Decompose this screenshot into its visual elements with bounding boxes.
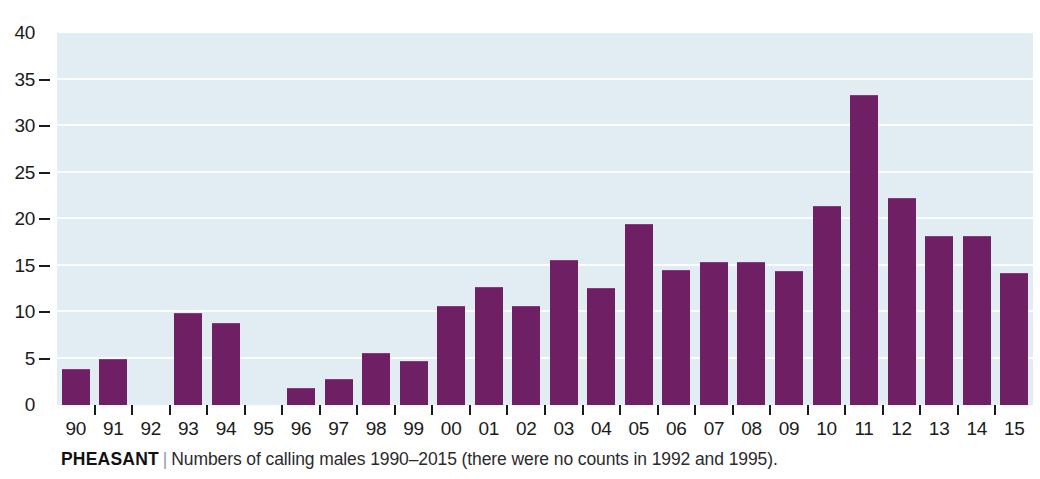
- caption-description: Numbers of calling males 1990–2015 (ther…: [171, 449, 777, 469]
- bar-10[interactable]: [813, 206, 841, 405]
- x-tick-mark-5: [244, 405, 246, 415]
- x-tick-mark-3: [169, 405, 171, 415]
- gridline-35: [57, 78, 1033, 80]
- x-tick-mark-20: [807, 405, 809, 415]
- bar-06[interactable]: [662, 270, 690, 405]
- bar-13[interactable]: [925, 236, 953, 405]
- y-tick-mark-5: [39, 358, 50, 360]
- x-tick-label-98: 98: [366, 418, 387, 440]
- y-tick-mark-25: [39, 172, 50, 174]
- plot-area: [57, 33, 1033, 405]
- gridline-5: [57, 357, 1033, 359]
- x-tick-label-09: 09: [779, 418, 800, 440]
- x-tick-label-06: 06: [666, 418, 687, 440]
- bar-09[interactable]: [775, 271, 803, 405]
- x-tick-label-12: 12: [891, 418, 912, 440]
- y-tick-label-15: 15: [14, 255, 35, 277]
- bar-03[interactable]: [550, 260, 578, 405]
- bar-91[interactable]: [99, 359, 127, 405]
- caption-species-name: PHEASANT: [61, 449, 159, 469]
- y-tick-label-5: 5: [25, 348, 35, 370]
- bar-96[interactable]: [287, 388, 315, 405]
- bar-97[interactable]: [325, 379, 353, 405]
- bar-11[interactable]: [850, 95, 878, 405]
- y-tick-label-0: 0: [25, 394, 35, 416]
- x-tick-mark-12: [506, 405, 508, 415]
- y-tick-label-40: 40: [14, 22, 35, 44]
- bar-90[interactable]: [62, 369, 90, 405]
- y-tick-label-25: 25: [14, 162, 35, 184]
- x-tick-mark-6: [281, 405, 283, 415]
- x-tick-mark-9: [394, 405, 396, 415]
- x-tick-label-04: 04: [591, 418, 612, 440]
- x-tick-mark-7: [319, 405, 321, 415]
- x-tick-label-13: 13: [929, 418, 950, 440]
- x-tick-label-05: 05: [629, 418, 650, 440]
- x-tick-label-11: 11: [855, 418, 874, 440]
- bar-01[interactable]: [475, 287, 503, 405]
- bar-15[interactable]: [1000, 273, 1028, 405]
- x-tick-mark-13: [544, 405, 546, 415]
- x-tick-label-15: 15: [1004, 418, 1025, 440]
- x-tick-mark-15: [619, 405, 621, 415]
- bar-94[interactable]: [212, 323, 240, 405]
- bar-99[interactable]: [400, 361, 428, 405]
- x-tick-mark-4: [206, 405, 208, 415]
- x-tick-mark-23: [919, 405, 921, 415]
- bar-05[interactable]: [625, 224, 653, 405]
- y-tick-mark-30: [39, 125, 50, 127]
- x-tick-mark-24: [957, 405, 959, 415]
- x-tick-mark-2: [131, 405, 133, 415]
- x-tick-label-08: 08: [741, 418, 762, 440]
- x-tick-label-00: 00: [441, 418, 462, 440]
- bar-93[interactable]: [174, 313, 202, 405]
- x-tick-label-02: 02: [516, 418, 537, 440]
- x-tick-mark-10: [431, 405, 433, 415]
- y-tick-label-10: 10: [14, 301, 35, 323]
- x-tick-mark-17: [694, 405, 696, 415]
- y-tick-mark-20: [39, 218, 50, 220]
- gridline-20: [57, 217, 1033, 219]
- gridline-10: [57, 310, 1033, 312]
- x-tick-label-94: 94: [216, 418, 237, 440]
- bar-14[interactable]: [963, 236, 991, 405]
- x-tick-mark-18: [732, 405, 734, 415]
- bar-07[interactable]: [700, 262, 728, 405]
- x-tick-mark-1: [94, 405, 96, 415]
- gridline-15: [57, 264, 1033, 266]
- x-tick-label-92: 92: [141, 418, 162, 440]
- x-tick-mark-11: [469, 405, 471, 415]
- x-tick-label-07: 07: [704, 418, 725, 440]
- x-tick-label-10: 10: [816, 418, 837, 440]
- bar-98[interactable]: [362, 353, 390, 405]
- gridline-30: [57, 124, 1033, 126]
- y-tick-label-30: 30: [14, 115, 35, 137]
- x-tick-label-01: 01: [478, 418, 499, 440]
- bar-02[interactable]: [512, 306, 540, 405]
- x-tick-mark-16: [657, 405, 659, 415]
- x-tick-label-93: 93: [178, 418, 199, 440]
- x-tick-label-96: 96: [291, 418, 312, 440]
- x-tick-mark-19: [769, 405, 771, 415]
- y-tick-mark-15: [39, 265, 50, 267]
- x-axis: 9091929394959697989900010203040506070809…: [57, 405, 1033, 443]
- x-tick-mark-25: [994, 405, 996, 415]
- x-tick-label-91: 91: [103, 418, 124, 440]
- x-tick-label-03: 03: [553, 418, 574, 440]
- x-tick-mark-14: [582, 405, 584, 415]
- x-tick-mark-8: [356, 405, 358, 415]
- bar-08[interactable]: [737, 262, 765, 405]
- x-tick-label-97: 97: [328, 418, 349, 440]
- y-axis: 0510152025303540: [0, 0, 57, 440]
- bar-04[interactable]: [587, 288, 615, 405]
- y-tick-mark-35: [39, 79, 50, 81]
- bar-00[interactable]: [437, 306, 465, 406]
- y-tick-mark-10: [39, 311, 50, 313]
- gridline-25: [57, 171, 1033, 173]
- bar-12[interactable]: [888, 198, 916, 405]
- y-tick-label-35: 35: [14, 69, 35, 91]
- x-tick-label-90: 90: [65, 418, 86, 440]
- x-tick-mark-22: [882, 405, 884, 415]
- figure-caption: PHEASANT|Numbers of calling males 1990–2…: [61, 449, 778, 470]
- y-tick-label-20: 20: [14, 208, 35, 230]
